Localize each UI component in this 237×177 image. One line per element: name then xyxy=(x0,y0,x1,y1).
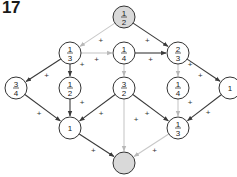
fraction-node: 1 xyxy=(219,77,237,99)
whole-number: 1 xyxy=(228,84,233,93)
fraction-denominator: 3 xyxy=(68,54,73,63)
fraction-node: 13 xyxy=(167,117,189,139)
fraction-numerator: 3 xyxy=(14,80,19,89)
answer-node-empty[interactable] xyxy=(113,152,135,174)
plus-operator-label: + xyxy=(99,109,104,118)
fraction-node: 13 xyxy=(59,42,81,64)
fraction-node: 12 xyxy=(59,77,81,99)
fraction-node: 14 xyxy=(113,42,135,64)
fraction-addition-diagram: +++++++++++++++++ 12131423341232141113 xyxy=(0,0,237,177)
fraction-numerator: 1 xyxy=(176,80,181,89)
fraction-node: 12 xyxy=(113,6,135,28)
fraction-node: 23 xyxy=(167,42,189,64)
fraction-denominator: 4 xyxy=(176,89,181,98)
edge-arrow xyxy=(80,23,115,46)
node-circle xyxy=(113,152,135,174)
fraction-denominator: 2 xyxy=(68,89,73,98)
plus-operator-label: + xyxy=(188,98,193,107)
plus-operator-label: + xyxy=(145,36,150,45)
plus-operator-label: + xyxy=(98,36,103,45)
fraction-node: 1 xyxy=(59,117,81,139)
fraction-denominator: 3 xyxy=(176,129,181,138)
whole-number: 1 xyxy=(68,124,73,133)
edge-arrow xyxy=(133,23,168,46)
fraction-node: 14 xyxy=(167,77,189,99)
edge-arrow xyxy=(187,59,220,81)
plus-operator-label: + xyxy=(44,71,49,80)
plus-operator-label: + xyxy=(91,146,96,155)
edge-arrow xyxy=(80,95,116,121)
plus-operator-label: + xyxy=(148,55,153,64)
plus-operator-label: + xyxy=(152,146,157,155)
fraction-node: 32 xyxy=(113,77,135,99)
fraction-node: 34 xyxy=(5,77,27,99)
nodes-layer: 12131423341232141113 xyxy=(5,6,237,174)
fraction-numerator: 1 xyxy=(68,80,73,89)
fraction-denominator: 2 xyxy=(122,18,127,27)
edge-arrow xyxy=(79,134,114,156)
fraction-denominator: 2 xyxy=(122,89,127,98)
fraction-numerator: 2 xyxy=(176,45,181,54)
plus-operator-label: + xyxy=(94,55,99,64)
fraction-denominator: 4 xyxy=(122,54,127,63)
fraction-numerator: 3 xyxy=(122,80,127,89)
fraction-numerator: 1 xyxy=(122,9,127,18)
fraction-numerator: 1 xyxy=(122,45,127,54)
fraction-denominator: 3 xyxy=(176,54,181,63)
plus-operator-label: + xyxy=(206,108,211,117)
edge-arrow xyxy=(188,95,222,121)
plus-operator-label: + xyxy=(134,115,139,124)
plus-operator-label: + xyxy=(80,60,85,69)
plus-operator-label: + xyxy=(145,109,150,118)
edge-arrow xyxy=(25,95,61,121)
fraction-denominator: 4 xyxy=(14,89,19,98)
fraction-numerator: 1 xyxy=(176,120,181,129)
plus-operator-label: + xyxy=(198,71,203,80)
fraction-numerator: 1 xyxy=(68,45,73,54)
plus-operator-label: + xyxy=(37,109,42,118)
plus-operator-label: + xyxy=(80,98,85,107)
